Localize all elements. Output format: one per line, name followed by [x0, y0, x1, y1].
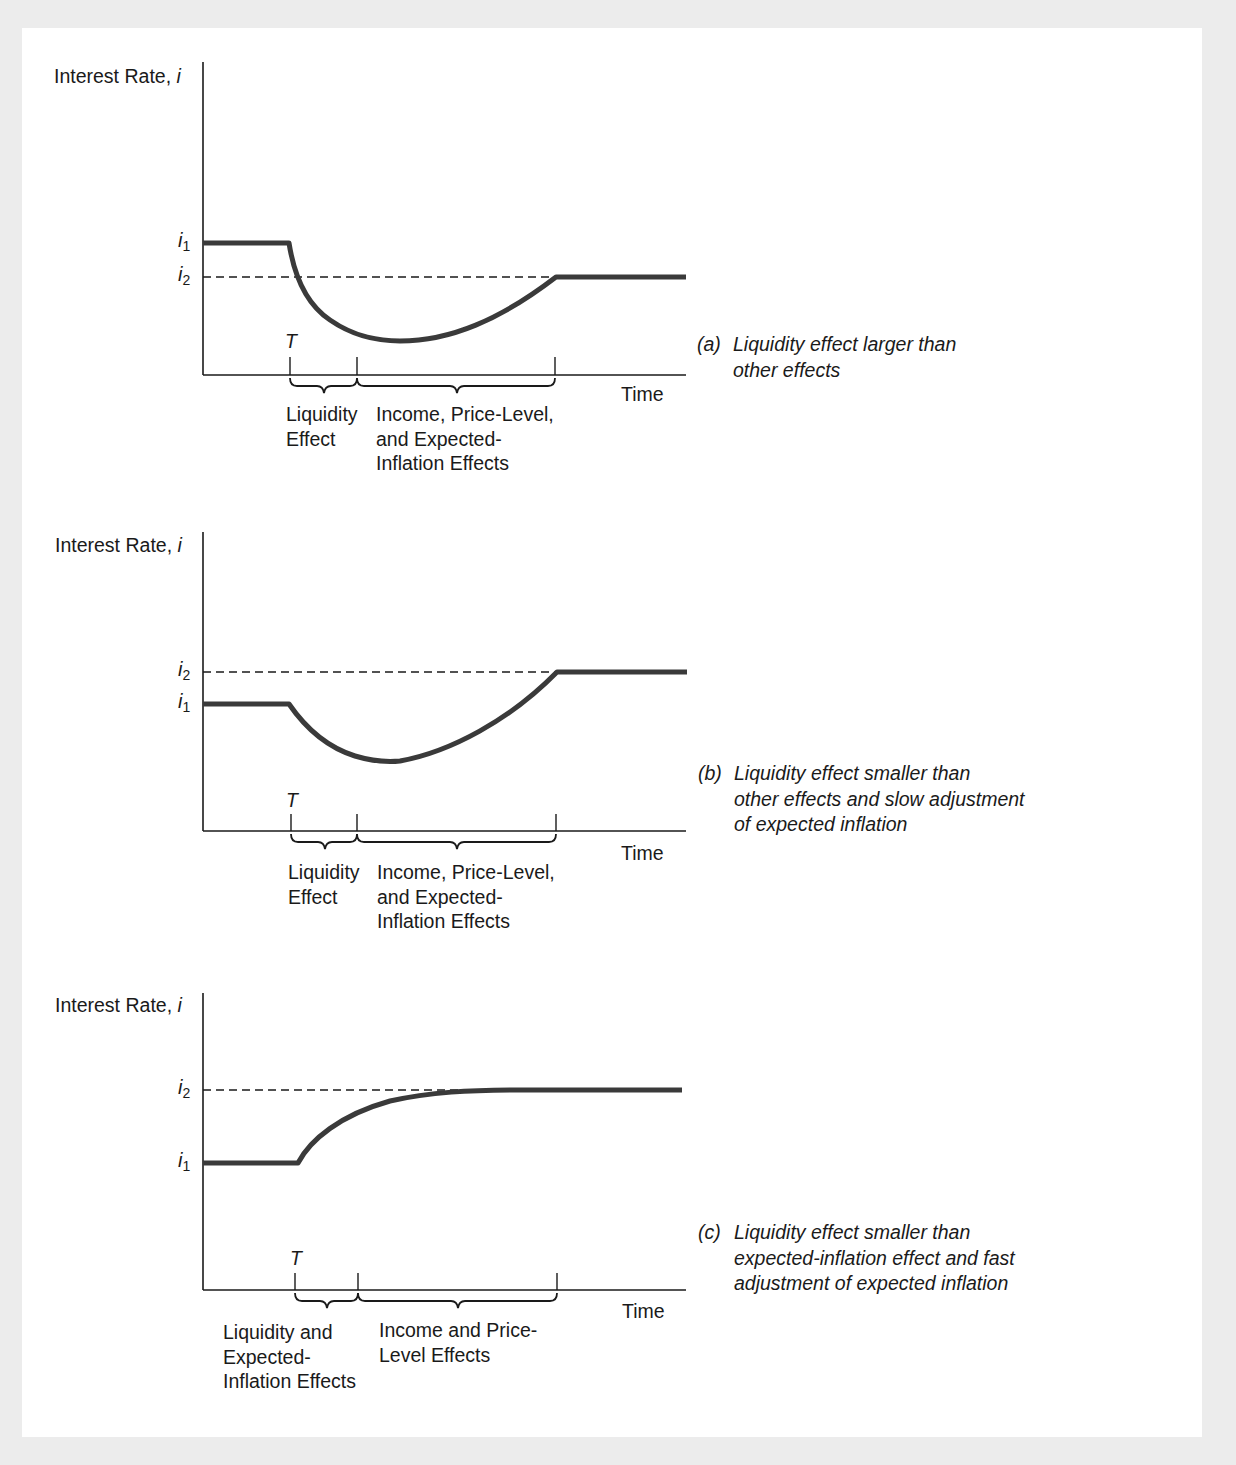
panel-b-chart [203, 532, 687, 849]
panel-a-effect-1: Liquidity Effect [286, 402, 358, 451]
panel-b-y-axis-symbol: i [177, 534, 181, 556]
panel-a-brace-2 [357, 378, 555, 393]
panel-a-event-T: T [285, 329, 297, 353]
panel-c-brace-2 [358, 1293, 557, 1308]
panel-c-y-axis-symbol: i [177, 994, 181, 1016]
panel-b-interest-rate-curve [203, 672, 687, 761]
panel-b-level-lower: i1 [178, 691, 190, 717]
panel-a-y-axis-label: Interest Rate, [54, 65, 171, 87]
figure-drawing [0, 0, 1236, 1465]
panel-c-caption: (c)Liquidity effect smaller than expecte… [698, 1220, 1015, 1297]
panel-a-x-axis-title: Time [621, 382, 664, 406]
panel-a-level-upper: i1 [178, 230, 190, 256]
panel-a-y-axis-symbol: i [176, 65, 180, 87]
panel-c-event-T: T [290, 1246, 302, 1270]
panel-c-chart [203, 993, 686, 1308]
panel-b-brace-1 [291, 834, 357, 849]
panel-c-x-axis-title: Time [622, 1299, 665, 1323]
panel-b-x-axis-title: Time [621, 841, 664, 865]
panel-a-caption: (a)Liquidity effect larger than other ef… [697, 332, 956, 383]
panel-c-brace-1 [295, 1293, 358, 1308]
panel-b-y-axis-title: Interest Rate, i [55, 533, 182, 557]
panel-b-level-upper: i2 [178, 659, 190, 685]
panel-b-brace-2 [357, 834, 556, 849]
panel-c-effect-2: Income and Price- Level Effects [379, 1318, 537, 1367]
panel-b-effect-2: Income, Price-Level, and Expected- Infla… [377, 860, 555, 934]
panel-a-effect-2: Income, Price-Level, and Expected- Infla… [376, 402, 554, 476]
panel-b-caption: (b)Liquidity effect smaller than other e… [698, 761, 1025, 838]
panel-a-interest-rate-curve [203, 243, 686, 341]
panel-b-y-axis-label: Interest Rate, [55, 534, 172, 556]
panel-c-level-upper: i2 [178, 1077, 190, 1103]
panel-b-event-T: T [286, 788, 298, 812]
panel-a-level-lower: i2 [178, 264, 190, 290]
panel-b-effect-1: Liquidity Effect [288, 860, 360, 909]
panel-c-y-axis-label: Interest Rate, [55, 994, 172, 1016]
panel-a-chart [203, 62, 686, 393]
panel-a-brace-1 [290, 378, 357, 393]
panel-c-effect-1: Liquidity and Expected- Inflation Effect… [223, 1320, 356, 1394]
panel-c-level-lower: i1 [178, 1150, 190, 1176]
panel-c-interest-rate-curve [203, 1090, 682, 1163]
panel-a-y-axis-title: Interest Rate, i [54, 64, 181, 88]
panel-c-y-axis-title: Interest Rate, i [55, 993, 182, 1017]
